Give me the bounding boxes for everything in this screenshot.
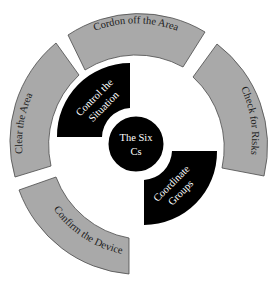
center-label-line1: The Six [120,132,154,143]
center-hub [107,115,165,173]
diagram-canvas: The Six Cs Cordon off the Area Check for… [0,0,273,285]
center-label-line2: Cs [130,146,141,157]
six-cs-diagram: The Six Cs Cordon off the Area Check for… [0,0,273,285]
